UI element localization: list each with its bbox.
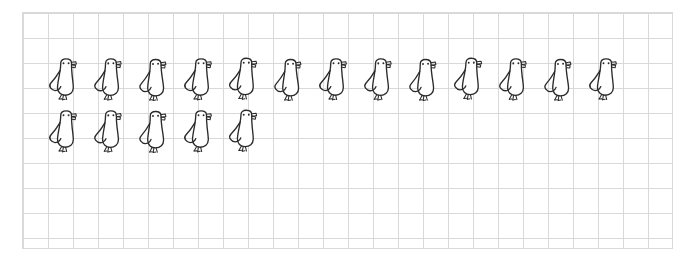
bird-doodle-icon	[408, 57, 453, 103]
bird-doodle-icon	[318, 57, 363, 103]
bird-doodle-icon	[48, 57, 93, 103]
bird-doodle-icon	[138, 109, 183, 155]
worksheet-canvas	[0, 0, 685, 260]
bird-doodle-icon	[453, 57, 498, 103]
bird-doodle-icon	[363, 57, 408, 103]
bird-doodle-icon	[588, 57, 633, 103]
bird-doodle-icon	[138, 57, 183, 103]
bird-doodle-icon	[273, 57, 318, 103]
bird-row-2	[48, 109, 273, 155]
grid-bottom-edge	[22, 248, 673, 249]
bird-doodle-icon	[183, 109, 228, 155]
bird-doodle-icon	[228, 109, 273, 155]
bird-doodle-icon	[48, 109, 93, 155]
bird-doodle-icon	[93, 109, 138, 155]
grid-right-edge	[672, 12, 673, 248]
bird-doodle-icon	[498, 57, 543, 103]
bird-doodle-icon	[543, 57, 588, 103]
bird-doodle-icon	[93, 57, 138, 103]
bird-doodle-icon	[183, 57, 228, 103]
bird-doodle-icon	[228, 57, 273, 103]
bird-row-1	[48, 57, 633, 103]
